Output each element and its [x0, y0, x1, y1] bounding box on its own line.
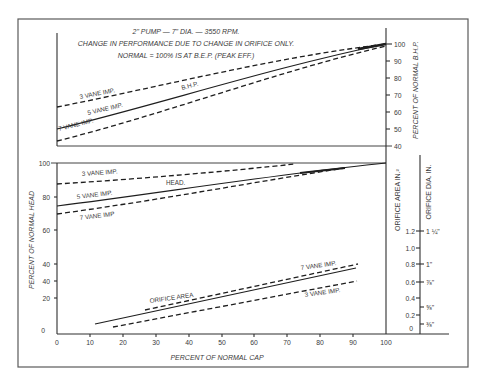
orifice-7-vane-label: 7 VANE IMP.: [300, 259, 337, 271]
orifice-dia-axis-label: ORIFICE DIA. IN.: [425, 165, 432, 220]
orifice-area-tick-0.4: 0.4: [406, 295, 416, 302]
head-tick-80: 80: [42, 194, 50, 201]
bhp-tick-70: 70: [394, 92, 402, 99]
bhp-tick-40: 40: [394, 143, 402, 150]
head-7-vane-label: 7 VANE IMP: [79, 210, 114, 221]
x-tick-80: 80: [316, 339, 324, 346]
bhp-curve-label: B.H.P.: [180, 80, 199, 91]
bhp-axis-label: PERCENT OF NORMAL B.H.P.: [412, 41, 419, 139]
orifice-dia-tick-1: 1": [426, 261, 433, 268]
head-tick-100: 100: [39, 160, 51, 167]
bhp-ticks: [383, 44, 392, 129]
orifice-3-vane-label: 3 VANE IMP.: [304, 286, 341, 298]
bhp-tick-80: 80: [394, 75, 402, 82]
title-line-1: 2" PUMP — 7" DIA. — 3550 RPM.: [131, 28, 239, 35]
orifice-dia-tick-3-8: ⅜": [426, 321, 435, 328]
bhp-7-vane-label: 7 VANE IMP.: [58, 116, 95, 132]
x-tick-60: 60: [250, 339, 258, 346]
bhp-3-vane-label: 3 VANE IMP.: [79, 86, 116, 100]
orifice-area-tick-0.6: 0.6: [406, 279, 416, 286]
pump-performance-chart: 2" PUMP — 7" DIA. — 3550 RPM. CHANGE IN …: [0, 0, 482, 386]
orifice-dia-tick-5-8: ⅝": [426, 304, 435, 311]
orifice-area-curve-label: ORIFICE AREA: [149, 291, 194, 304]
x-tick-50: 50: [218, 339, 226, 346]
bhp-tick-90: 90: [394, 58, 402, 65]
title-line-2: CHANGE IN PERFORMANCE DUE TO CHANGE IN O…: [78, 40, 294, 47]
x-tick-40: 40: [185, 339, 193, 346]
head-tick-20: 20: [42, 295, 50, 302]
x-tick-70: 70: [283, 339, 291, 346]
orifice-dia-tick-1-1-4: 1 ¼": [426, 228, 440, 235]
x-axis-label: PERCENT OF NORMAL CAP: [170, 354, 263, 361]
orifice-dia-tick-7-8: ⅞": [426, 279, 435, 286]
orifice-area-axis-label: ORIFICE AREA IN.²: [394, 168, 401, 231]
orifice-area-tick-1.2: 1.2: [406, 228, 416, 235]
x-tick-30: 30: [152, 339, 160, 346]
head-tick-40a: 40: [42, 261, 50, 268]
x-tick-100: 100: [380, 339, 392, 346]
head-tick-60: 60: [42, 227, 50, 234]
bhp-tick-100: 100: [394, 41, 406, 48]
x-tick-10: 10: [86, 339, 94, 346]
orifice-area-tick-0.8: 0.8: [406, 261, 416, 268]
orifice-area-tick-1.0: 1.0: [406, 245, 416, 252]
bhp-tick-60: 60: [394, 109, 402, 116]
x-tick-90: 90: [349, 339, 357, 346]
head-tick-40b: 40: [42, 278, 50, 285]
head-tick-0: 0: [41, 327, 45, 334]
x-tick-20: 20: [119, 339, 127, 346]
head-3-vane-label: 3 VANE IMP.: [82, 167, 118, 176]
head-curve-label: HEAD.: [166, 179, 185, 186]
x-tick-0: 0: [55, 339, 59, 346]
head-converge-mark: [300, 168, 345, 173]
orifice-area-tick-0: 0: [409, 325, 413, 332]
head-5-vane-label: 5 VANE IMP.: [76, 189, 113, 200]
orifice-area-tick-0.2: 0.2: [406, 312, 416, 319]
head-axis-label: PERCENT OF NORMAL HEAD: [28, 191, 35, 289]
bhp-tick-50: 50: [394, 126, 402, 133]
title-line-3: NORMAL = 100% IS AT B.E.P. (PEAK EFF.): [118, 52, 255, 60]
